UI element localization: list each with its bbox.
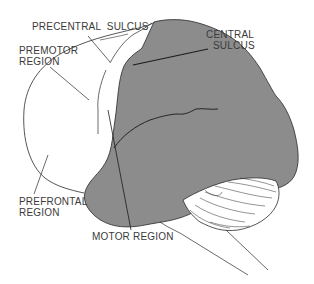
central-sulcus-label-line1: CENTRAL — [206, 29, 254, 40]
premotor-leader — [50, 67, 89, 100]
precentral-sulcus-label: PRECENTRAL SULCUS — [32, 21, 149, 32]
brain-diagram: PRECENTRAL SULCUS CENTRAL SULCUS PREMOTO… — [0, 0, 314, 284]
brainstem-line-back — [226, 230, 268, 270]
central-sulcus-label-line2: SULCUS — [213, 40, 255, 51]
prefrontal-region-label-line1: PREFRONTAL — [19, 196, 88, 207]
precentral-leader — [88, 36, 110, 62]
premotor-region-label-line2: REGION — [19, 56, 60, 67]
prefrontal-region-label-line2: REGION — [19, 207, 60, 218]
precentral-sulcus-lower — [98, 70, 106, 134]
premotor-inner-curve — [100, 34, 128, 40]
premotor-region-label-line1: PREMOTOR — [19, 45, 78, 56]
motor-region-label: MOTOR REGION — [92, 231, 174, 242]
prefrontal-leader — [34, 155, 48, 194]
